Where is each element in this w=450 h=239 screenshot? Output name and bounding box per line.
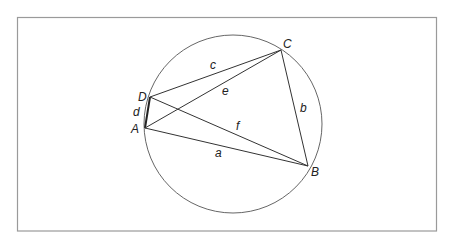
segment-label-c: c: [210, 58, 216, 72]
vertex-label-a: A: [130, 122, 139, 136]
vertex-label-b: B: [311, 165, 319, 179]
vertex-label-c: C: [283, 37, 292, 51]
cyclic-quadrilateral-diagram: A D C B d c e b f a: [0, 0, 450, 239]
segment-label-d: d: [133, 105, 140, 119]
segment-label-a: a: [215, 146, 222, 160]
diagram-frame: [18, 18, 437, 232]
vertex-label-d: D: [138, 90, 147, 104]
segment-label-e: e: [222, 84, 229, 98]
segment-label-b: b: [300, 101, 307, 115]
